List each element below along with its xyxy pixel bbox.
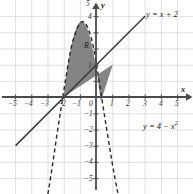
x-tick-label--1: −1	[72, 100, 81, 108]
x-tick-label-2: 2	[126, 100, 130, 108]
x-tick-label-5: 5	[175, 100, 179, 108]
y-tick-label--5: −5	[84, 175, 93, 183]
x-tick-label-0: 0	[89, 100, 93, 108]
x-tick-label--5: −5	[8, 100, 17, 108]
y-tick-label--3: −3	[84, 142, 93, 150]
y-tick-label--4: −4	[84, 158, 93, 166]
parabola-exponent: 2	[175, 120, 178, 126]
region-label: R	[84, 42, 89, 50]
y-tick-label--2: −2	[84, 126, 93, 134]
x-tick-label--3: −3	[40, 100, 49, 108]
y-tick-label-5: 5	[86, 0, 90, 8]
y-tick-label--1: −1	[84, 110, 93, 118]
x-tick-label-4: 4	[159, 100, 163, 108]
y-axis-label: y	[101, 1, 105, 10]
x-axis-label: x	[181, 85, 185, 94]
x-tick-label--2: −2	[57, 100, 66, 108]
parabola-equation-label: y = 4 − x2	[143, 120, 178, 130]
y-tick-label-4: 4	[88, 13, 92, 21]
y-tick-label-1: 1	[88, 62, 92, 70]
x-tick-label--4: −4	[24, 100, 33, 108]
x-tick-label-1: 1	[110, 100, 114, 108]
coordinate-plane	[0, 0, 193, 194]
line-equation-label: y = x + 2	[146, 10, 178, 19]
parabola-equation-text: y = 4 − x	[143, 121, 175, 131]
x-tick-label-3: 3	[143, 100, 147, 108]
graph-figure: −5 −4 −3 −2 −1 0 1 2 3 4 5 5 4 1 −1 −2 −…	[0, 0, 193, 194]
